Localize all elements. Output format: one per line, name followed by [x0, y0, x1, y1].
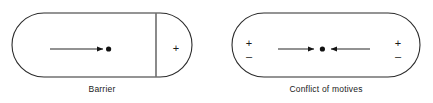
- diagram-canvas: + + – + – Barrier Conflict of motives: [0, 0, 433, 103]
- barrier-goal-plus-sign: +: [165, 43, 187, 54]
- caption-conflict-of-motives: Conflict of motives: [228, 84, 424, 94]
- barrier-person-dot: [106, 46, 111, 51]
- conflict-person-dot: [320, 46, 325, 51]
- conflict-right-plus-sign: +: [388, 38, 408, 49]
- conflict-left-minus-sign: –: [239, 51, 259, 62]
- conflict-left-plus-sign: +: [239, 38, 259, 49]
- caption-barrier: Barrier: [0, 84, 204, 94]
- conflict-right-minus-sign: –: [388, 51, 408, 62]
